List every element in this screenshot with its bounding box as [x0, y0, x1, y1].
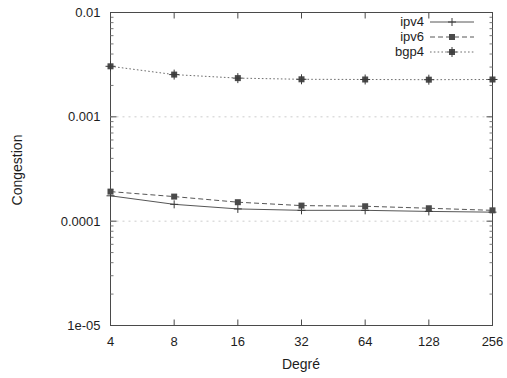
plot-frame: [111, 13, 493, 326]
legend-marker-bgp4: [447, 47, 457, 57]
y-axis-tick-labels: 1e-050.00010.0010.01: [61, 5, 101, 333]
data-point-bgp4: [424, 75, 434, 85]
data-point-bgp4: [233, 73, 243, 83]
data-point-bgp4: [360, 74, 370, 84]
data-point-ipv6: [426, 205, 432, 211]
x-tick-label: 256: [482, 334, 504, 349]
y-axis-ticks: [111, 13, 493, 326]
x-tick-label: 16: [231, 334, 245, 349]
data-series-layer: [106, 61, 498, 216]
y-tick-label: 0.0001: [61, 214, 101, 229]
chart-figure: 1e-050.00010.0010.01 48163264128256 Degr…: [0, 0, 507, 378]
data-point-ipv6: [171, 194, 177, 200]
congestion-vs-degree-chart: 1e-050.00010.0010.01 48163264128256 Degr…: [0, 0, 507, 378]
legend-marker-ipv4: [448, 18, 456, 26]
data-point-ipv4: [234, 205, 242, 213]
x-axis-ticks: [111, 13, 493, 326]
x-tick-label: 4: [107, 334, 114, 349]
data-point-ipv6: [235, 199, 241, 205]
data-point-ipv4: [170, 200, 178, 208]
series-bgp4: [106, 61, 498, 84]
data-point-ipv6: [299, 203, 305, 209]
data-point-bgp4: [488, 74, 498, 84]
legend-label-ipv4: ipv4: [400, 14, 424, 29]
x-tick-label: 64: [358, 334, 372, 349]
data-point-bgp4: [169, 70, 179, 80]
x-axis-title: Degré: [282, 356, 320, 372]
data-point-ipv6: [108, 189, 114, 195]
chart-legend: ipv4ipv6bgp4: [395, 14, 474, 59]
legend-marker-ipv6: [449, 34, 455, 40]
legend-label-bgp4: bgp4: [395, 44, 424, 59]
x-axis-tick-labels: 48163264128256: [107, 334, 503, 349]
data-point-bgp4: [297, 74, 307, 84]
y-axis-title: Congestion: [9, 135, 25, 206]
y-tick-label: 0.01: [75, 5, 100, 20]
legend-label-ipv6: ipv6: [400, 29, 424, 44]
x-tick-label: 32: [294, 334, 308, 349]
data-point-ipv6: [490, 207, 496, 213]
data-point-bgp4: [106, 61, 116, 71]
y-tick-label: 1e-05: [67, 318, 100, 333]
x-tick-label: 8: [171, 334, 178, 349]
y-tick-label: 0.001: [68, 109, 101, 124]
x-tick-label: 128: [418, 334, 440, 349]
data-point-ipv6: [362, 203, 368, 209]
